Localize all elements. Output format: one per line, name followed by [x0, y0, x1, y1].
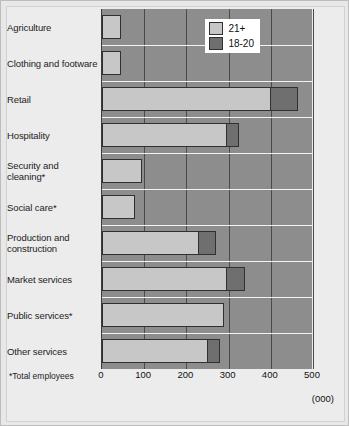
chart-figure: AgricultureClothing and footwareRetailHo…	[0, 0, 349, 426]
bar-segment-18-20	[226, 124, 238, 146]
row-separator	[102, 297, 312, 298]
bar-row	[102, 303, 224, 327]
x-tick-label-0: 0	[98, 369, 103, 380]
bar-segment-18-20	[226, 268, 245, 290]
row-separator	[102, 225, 312, 226]
x-tick-label-400: 400	[262, 369, 278, 380]
bar-row	[102, 15, 121, 39]
category-label-3: Hospitality	[7, 117, 99, 153]
category-label-5: Social care*	[7, 189, 99, 225]
bar-segment-21plus	[103, 340, 207, 362]
bar-row	[102, 159, 142, 183]
bar-segment-21plus	[103, 232, 198, 254]
bar-segment-21plus	[103, 124, 226, 146]
row-separator	[102, 261, 312, 262]
bar-segment-21plus	[103, 268, 226, 290]
bar-segment-18-20	[270, 88, 297, 110]
legend-item-21plus: 21+	[209, 22, 254, 35]
bar-segment-21plus	[103, 196, 134, 218]
x-tick-label-200: 200	[177, 369, 193, 380]
bar-row	[102, 87, 298, 111]
row-separator	[102, 81, 312, 82]
x-tick-label-100: 100	[135, 369, 151, 380]
legend-swatch-21plus-icon	[209, 22, 223, 35]
chart-units-note: (000)	[312, 393, 334, 404]
bar-row	[102, 267, 245, 291]
row-separator	[102, 189, 312, 190]
plot-area: 21+ 18-20	[101, 9, 312, 369]
category-label-9: Other services	[7, 333, 99, 369]
chart-footnote: *Total employees	[9, 371, 74, 381]
category-label-column: AgricultureClothing and footwareRetailHo…	[7, 9, 99, 369]
category-label-7: Market services	[7, 261, 99, 297]
bar-segment-21plus	[103, 88, 270, 110]
bar-row	[102, 231, 216, 255]
gridline-500	[313, 9, 314, 369]
category-label-1: Clothing and footware	[7, 45, 99, 81]
legend-swatch-18-20-icon	[209, 37, 223, 50]
legend-label-21plus: 21+	[228, 23, 245, 34]
category-label-2: Retail	[7, 81, 99, 117]
category-label-8: Public services*	[7, 297, 99, 333]
legend-label-18-20: 18-20	[228, 38, 254, 49]
chart-legend: 21+ 18-20	[205, 19, 260, 53]
row-separator	[102, 333, 312, 334]
bar-segment-21plus	[103, 304, 223, 326]
bar-row	[102, 123, 239, 147]
x-tick-label-500: 500	[304, 369, 320, 380]
category-label-6: Production and construction	[7, 225, 99, 261]
bar-segment-21plus	[103, 52, 120, 74]
x-tick-label-300: 300	[220, 369, 236, 380]
row-separator	[102, 153, 312, 154]
x-axis-ticks: 0100200300400500	[101, 369, 312, 383]
bar-segment-21plus	[103, 160, 141, 182]
category-label-0: Agriculture	[7, 9, 99, 45]
bar-segment-18-20	[207, 340, 219, 362]
category-label-4: Security and cleaning*	[7, 153, 99, 189]
bar-row	[102, 339, 220, 363]
legend-item-18-20: 18-20	[209, 37, 254, 50]
bar-row	[102, 195, 135, 219]
bar-segment-21plus	[103, 16, 120, 38]
bar-segment-18-20	[198, 232, 215, 254]
bar-row	[102, 51, 121, 75]
row-separator	[102, 117, 312, 118]
